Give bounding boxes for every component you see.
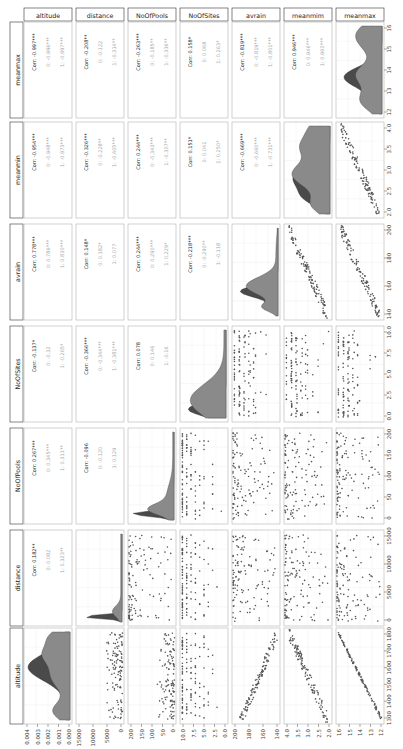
- scatter-point: [347, 146, 349, 148]
- scatter-point: [212, 476, 214, 478]
- scatter-point: [286, 358, 288, 360]
- scatter-point: [253, 691, 255, 693]
- scatter-point: [208, 693, 210, 695]
- scatter-point: [287, 579, 289, 581]
- scatter-point: [236, 489, 238, 491]
- scatter-point: [343, 511, 345, 513]
- scatter-point: [326, 317, 328, 319]
- scatter-point: [286, 354, 288, 356]
- scatter-point: [132, 544, 134, 546]
- scatter-point: [234, 404, 236, 406]
- scatter-point: [376, 304, 378, 306]
- scatter-point: [163, 703, 165, 705]
- scatter-point: [327, 619, 329, 621]
- scatter-point: [340, 563, 342, 565]
- scatter-point: [292, 638, 294, 640]
- scatter-point: [182, 507, 184, 509]
- scatter-point: [348, 349, 350, 351]
- scatter-point: [295, 416, 297, 418]
- scatter-point: [131, 619, 133, 621]
- scatter-point: [342, 128, 344, 130]
- scatter-point: [290, 380, 292, 382]
- scatter-point: [169, 691, 171, 693]
- scatter-point: [364, 604, 366, 606]
- column-strip-label: NoOfSites: [188, 12, 219, 19]
- scatter-point: [186, 633, 188, 635]
- scatter-point: [182, 673, 184, 675]
- scatter-point: [199, 570, 201, 572]
- scatter-point: [369, 192, 371, 194]
- scatter-point: [378, 444, 380, 446]
- scatter-point: [346, 247, 348, 249]
- scatter-point: [159, 659, 161, 661]
- scatter-point: [342, 640, 344, 642]
- scatter-point: [342, 345, 344, 347]
- scatter-point: [276, 639, 278, 641]
- scatter-point: [337, 472, 339, 474]
- scatter-point: [182, 516, 184, 518]
- scatter-point: [338, 482, 340, 484]
- axis-tick-label: 2.5: [212, 729, 218, 738]
- scatter-point: [265, 394, 267, 396]
- scatter-point: [114, 653, 116, 655]
- scatter-point: [298, 536, 300, 538]
- scatter-point: [166, 681, 168, 683]
- scatter-point: [195, 485, 197, 487]
- scatter-point: [348, 334, 350, 336]
- scatter-point: [363, 181, 365, 183]
- scatter-point: [247, 707, 249, 709]
- scatter-point: [339, 508, 341, 510]
- scatter-point: [182, 443, 184, 445]
- scatter-point: [295, 413, 297, 415]
- scatter-point: [311, 619, 313, 621]
- scatter-point: [315, 296, 317, 298]
- scatter-point: [336, 614, 338, 616]
- scatter-point: [351, 490, 353, 492]
- scatter-point: [263, 458, 265, 460]
- scatter-point: [167, 644, 169, 646]
- scatter-point: [248, 489, 250, 491]
- scatter-point: [341, 227, 343, 229]
- scatter-point: [347, 596, 349, 598]
- scatter-point: [156, 617, 158, 619]
- scatter-point: [367, 610, 369, 612]
- scatter-point: [182, 453, 184, 455]
- scatter-point: [199, 683, 201, 685]
- axis-tick-label: 16: [336, 729, 342, 736]
- scatter-point: [304, 261, 306, 263]
- scatter-point: [164, 638, 166, 640]
- scatter-point: [325, 566, 327, 568]
- scatter-point: [216, 586, 218, 588]
- scatter-point: [336, 451, 338, 453]
- scatter-point: [362, 456, 364, 458]
- scatter-point: [359, 268, 361, 270]
- scatter-point: [305, 470, 307, 472]
- scatter-point: [249, 493, 251, 495]
- scatter-point: [320, 296, 322, 298]
- scatter-point: [235, 576, 237, 578]
- scatter-point: [190, 699, 192, 701]
- scatter-point: [294, 645, 296, 647]
- scatter-point: [236, 438, 238, 440]
- axis-tick-label: 15000: [386, 527, 392, 545]
- scatter-point: [241, 547, 243, 549]
- panel-altitude-noofsites: Corr: -0.137*0: -0.321: -0.265*: [24, 326, 72, 422]
- scatter-point: [203, 595, 205, 597]
- scatter-point: [285, 485, 287, 487]
- scatter-point: [358, 169, 360, 171]
- scatter-point: [344, 129, 346, 131]
- scatter-point: [199, 475, 201, 477]
- scatter-point: [302, 565, 304, 567]
- scatter-point: [296, 398, 298, 400]
- scatter-point: [298, 462, 300, 464]
- scatter-point: [240, 713, 242, 715]
- scatter-point: [195, 681, 197, 683]
- correlation-text: Corr: 0.946***: [291, 34, 297, 70]
- scatter-point: [284, 477, 286, 479]
- scatter-point: [305, 363, 307, 365]
- scatter-point: [121, 654, 123, 656]
- scatter-point: [263, 587, 265, 589]
- scatter-point: [186, 612, 188, 614]
- scatter-point: [108, 669, 110, 671]
- correlation-text: 1: -0.973***: [59, 136, 65, 167]
